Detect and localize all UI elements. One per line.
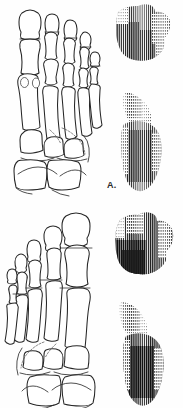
foot-skeleton-b-svg [2, 206, 106, 408]
footprint-a [106, 0, 183, 200]
footprint-b-forefoot [106, 206, 183, 308]
panel-label-a: A. [107, 180, 117, 190]
panel-b: B. [0, 206, 183, 408]
footprint-b-heel [106, 328, 183, 408]
panel-a: A. [0, 0, 183, 200]
foot-skeleton-a [2, 0, 106, 200]
footprint-a-svg [106, 0, 183, 200]
foot-skeleton-b [2, 206, 106, 408]
anatomical-figure: A. [0, 0, 183, 408]
footprint-b [106, 206, 183, 408]
footprint-a-heel [106, 115, 183, 200]
footprint-a-forefoot [106, 0, 183, 100]
footprint-b-svg [106, 206, 183, 408]
foot-skeleton-a-svg [2, 0, 106, 200]
